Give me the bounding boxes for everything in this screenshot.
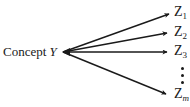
target-letter: Z	[174, 43, 183, 58]
target-letter: Z	[174, 4, 183, 19]
target-subscript: m	[183, 93, 190, 103]
target-label-z3: Z3	[174, 44, 187, 60]
arrow-to-z1	[63, 14, 169, 52]
target-letter: Z	[174, 24, 183, 39]
arrow-to-z2	[63, 33, 167, 52]
target-label-z1: Z1	[174, 5, 187, 21]
source-prefix: Concept	[3, 44, 46, 59]
target-letter: Z	[174, 86, 183, 101]
source-variable: Y	[50, 44, 57, 59]
source-concept-label: Concept Y	[3, 45, 57, 58]
ellipsis-dot	[181, 81, 184, 84]
ellipsis-dot	[181, 67, 184, 70]
ellipsis-dot	[181, 74, 184, 77]
concept-fanout-diagram: Concept Y Z1 Z2 Z3 Zm	[0, 0, 190, 107]
target-subscript: 3	[183, 50, 188, 60]
target-label-zm: Zm	[174, 87, 189, 103]
arrow-to-zm	[63, 52, 166, 94]
target-label-z2: Z2	[174, 25, 187, 41]
target-subscript: 2	[183, 31, 188, 41]
target-subscript: 1	[183, 11, 188, 21]
arrow-origin-wedge	[62, 48, 70, 56]
